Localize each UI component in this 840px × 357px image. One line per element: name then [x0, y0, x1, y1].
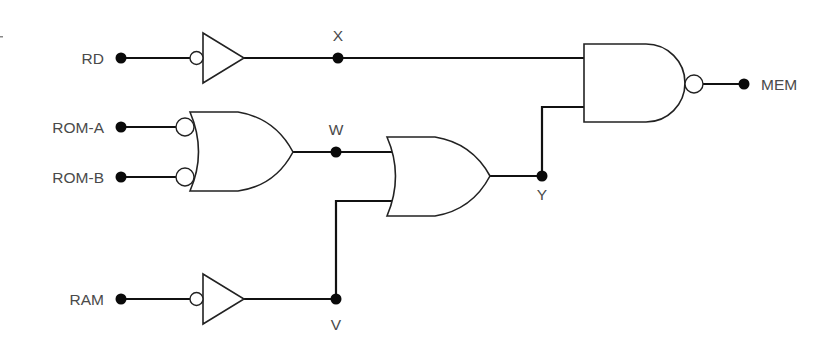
input-node-rom-a — [116, 122, 127, 133]
node-label-v: V — [331, 316, 342, 333]
or-rom-bubble-b — [176, 168, 194, 186]
input-label-rom-a: ROM-A — [52, 119, 104, 136]
junction-node-x — [333, 53, 344, 64]
inverter-rd-bubble — [190, 52, 203, 65]
stray-mark — [0, 36, 3, 38]
input-label-ram: RAM — [70, 291, 104, 308]
input-node-rom-b — [116, 172, 127, 183]
node-label-w: W — [329, 121, 344, 138]
node-label-x: X — [333, 27, 344, 44]
output-label-mem: MEM — [761, 76, 797, 93]
input-label-rom-b: ROM-B — [52, 169, 104, 186]
output-node-mem — [739, 79, 750, 90]
or-gate-wv — [387, 137, 490, 216]
junction-node-v — [331, 294, 342, 305]
junction-node-y — [537, 171, 548, 182]
input-node-rd — [116, 53, 127, 64]
nand-output-bubble — [685, 75, 703, 93]
logic-circuit-diagram: RD ROM-A ROM-B RAM X W Y V MEM — [0, 0, 840, 357]
junction-node-w — [331, 147, 342, 158]
inverter-rd-gate — [203, 33, 244, 83]
wire-y — [490, 107, 585, 176]
or-gate-rom — [190, 112, 293, 191]
inverter-ram-bubble — [190, 293, 203, 306]
wire-v — [244, 201, 393, 299]
node-label-y: Y — [537, 186, 547, 203]
or-rom-bubble-a — [176, 118, 194, 136]
nand-gate-mem — [584, 44, 685, 122]
input-node-ram — [116, 294, 127, 305]
inverter-ram-gate — [203, 274, 244, 324]
input-label-rd: RD — [82, 50, 104, 67]
